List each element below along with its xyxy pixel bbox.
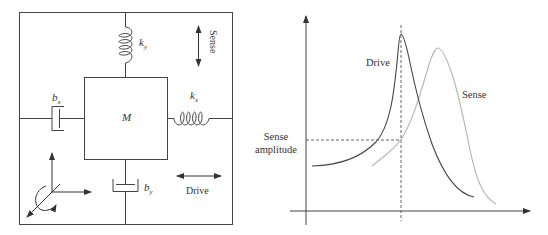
spring-y (119, 13, 132, 78)
spring-x-label: kx (190, 89, 199, 104)
spring-x (168, 112, 233, 125)
sense-response-curve (372, 48, 496, 204)
drive-arrow-label: Drive (186, 185, 209, 196)
sense-amplitude-label-line2: amplitude (255, 144, 297, 155)
damper-x (20, 107, 85, 131)
sense-amplitude-label-line1: Sense (264, 131, 289, 142)
mass-label: M (121, 111, 132, 123)
frequency-response-chart: Drive Sense Sense amplitude (255, 16, 530, 225)
damper-y (113, 160, 138, 225)
spring-y-label: ky (139, 36, 148, 51)
rotation-axes-icon (27, 153, 91, 217)
damper-y-label: by (144, 181, 154, 196)
sense-curve-label: Sense (462, 89, 487, 100)
drive-response-curve (312, 34, 474, 197)
figure: M ky kx bx by Sense Drive Drive Sense Se… (0, 0, 548, 235)
damper-x-label: bx (52, 91, 62, 106)
drive-curve-label: Drive (366, 57, 390, 68)
sense-arrow-label: Sense (208, 30, 219, 54)
